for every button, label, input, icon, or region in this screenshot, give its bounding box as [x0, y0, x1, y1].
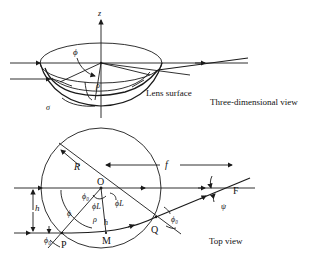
top-view-caption: Top view [209, 237, 243, 246]
rho-label-3d: ρ [96, 82, 100, 90]
phi-label-3d: ϕ [73, 48, 78, 57]
point-P-label: P [61, 240, 67, 250]
point-F-label: F [233, 186, 239, 196]
rho-label-top: ρ [93, 216, 97, 224]
diagram-lines [0, 0, 314, 259]
phiL-right-label: ϕL [115, 200, 124, 208]
point-Q-label: Q [151, 225, 158, 235]
sigma-label-3d: σ [46, 104, 50, 112]
phi-label-top: ϕ [67, 210, 71, 218]
h-left-label: h [35, 204, 40, 213]
phiL-left-label: ϕL [92, 203, 101, 211]
point-M-label: M [102, 236, 111, 246]
R-label: R [74, 162, 80, 172]
z-axis-label: z [98, 10, 101, 18]
psi-label: ψ [221, 203, 226, 211]
phi0-P-label: ϕ₀ [44, 237, 51, 245]
h-center-label: h [104, 219, 108, 227]
three-dimensional-view-caption: Three-dimensional view [210, 98, 298, 107]
lens-surface-label: Lens surface [146, 89, 192, 98]
phi0-O-label: ϕ₀ [82, 193, 89, 201]
phi0-Q-label: ϕ₀ [171, 216, 178, 224]
f-label: f [165, 160, 168, 170]
lens-ray-diagram: z ϕ ρ σ Lens surface Three-dimensional v… [0, 0, 314, 259]
point-O-label: O [97, 177, 104, 187]
